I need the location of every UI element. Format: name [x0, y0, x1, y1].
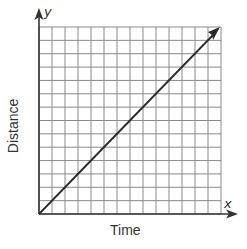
- x-axis-label: Time: [110, 222, 141, 238]
- y-axis-variable: y: [44, 4, 52, 19]
- distance-time-graph: [0, 0, 247, 249]
- y-axis-label: Distance: [4, 96, 22, 156]
- x-axis-variable: x: [224, 196, 232, 211]
